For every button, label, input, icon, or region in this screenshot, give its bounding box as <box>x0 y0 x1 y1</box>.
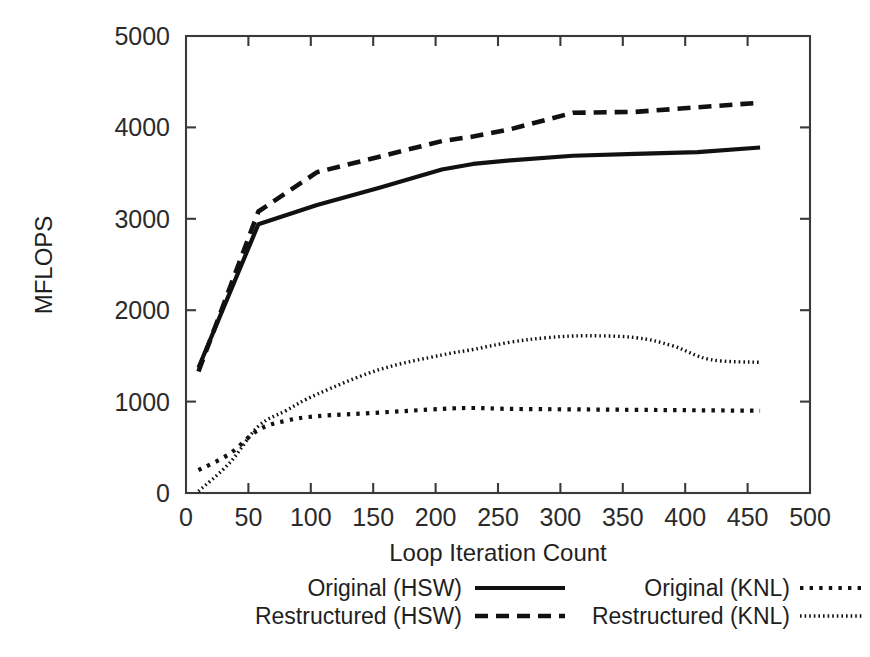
x-tick-label-400: 400 <box>664 503 706 531</box>
x-tick-label-250: 250 <box>477 503 519 531</box>
x-tick-label-100: 100 <box>290 503 332 531</box>
y-tick-label-5000: 5000 <box>114 22 170 50</box>
x-tick-label-50: 50 <box>234 503 262 531</box>
y-tick-label-0: 0 <box>156 479 170 507</box>
legend-label-1: Restructured (HSW) <box>255 603 462 629</box>
legend-label-0: Original (HSW) <box>307 575 462 601</box>
y-tick-label-3000: 3000 <box>114 205 170 233</box>
x-tick-label-300: 300 <box>540 503 582 531</box>
legend-label-2: Original (KNL) <box>644 575 790 601</box>
axis-labels-group: 0501001502002503003504004505000100020003… <box>30 22 831 566</box>
x-tick-label-500: 500 <box>789 503 831 531</box>
y-tick-label-2000: 2000 <box>114 296 170 324</box>
x-tick-label-0: 0 <box>179 503 193 531</box>
legend-label-3: Restructured (KNL) <box>592 603 790 629</box>
y-tick-label-4000: 4000 <box>114 113 170 141</box>
y-tick-label-1000: 1000 <box>114 388 170 416</box>
x-tick-label-200: 200 <box>415 503 457 531</box>
series-line-2 <box>198 408 760 470</box>
x-tick-label-350: 350 <box>602 503 644 531</box>
figure-container: 0501001502002503003504004505000100020003… <box>0 0 870 657</box>
series-line-0 <box>198 148 760 368</box>
x-tick-label-150: 150 <box>352 503 394 531</box>
axes-group <box>186 36 810 493</box>
series-line-3 <box>198 336 760 491</box>
series-group <box>198 103 760 491</box>
series-line-1 <box>198 103 760 372</box>
x-axis-title: Loop Iteration Count <box>389 539 607 566</box>
chart-canvas: 0501001502002503003504004505000100020003… <box>0 0 870 657</box>
plot-frame <box>186 36 810 493</box>
y-axis-title: MFLOPS <box>30 216 57 315</box>
x-tick-label-450: 450 <box>727 503 769 531</box>
legend-group: Original (HSW)Restructured (HSW)Original… <box>255 575 862 629</box>
